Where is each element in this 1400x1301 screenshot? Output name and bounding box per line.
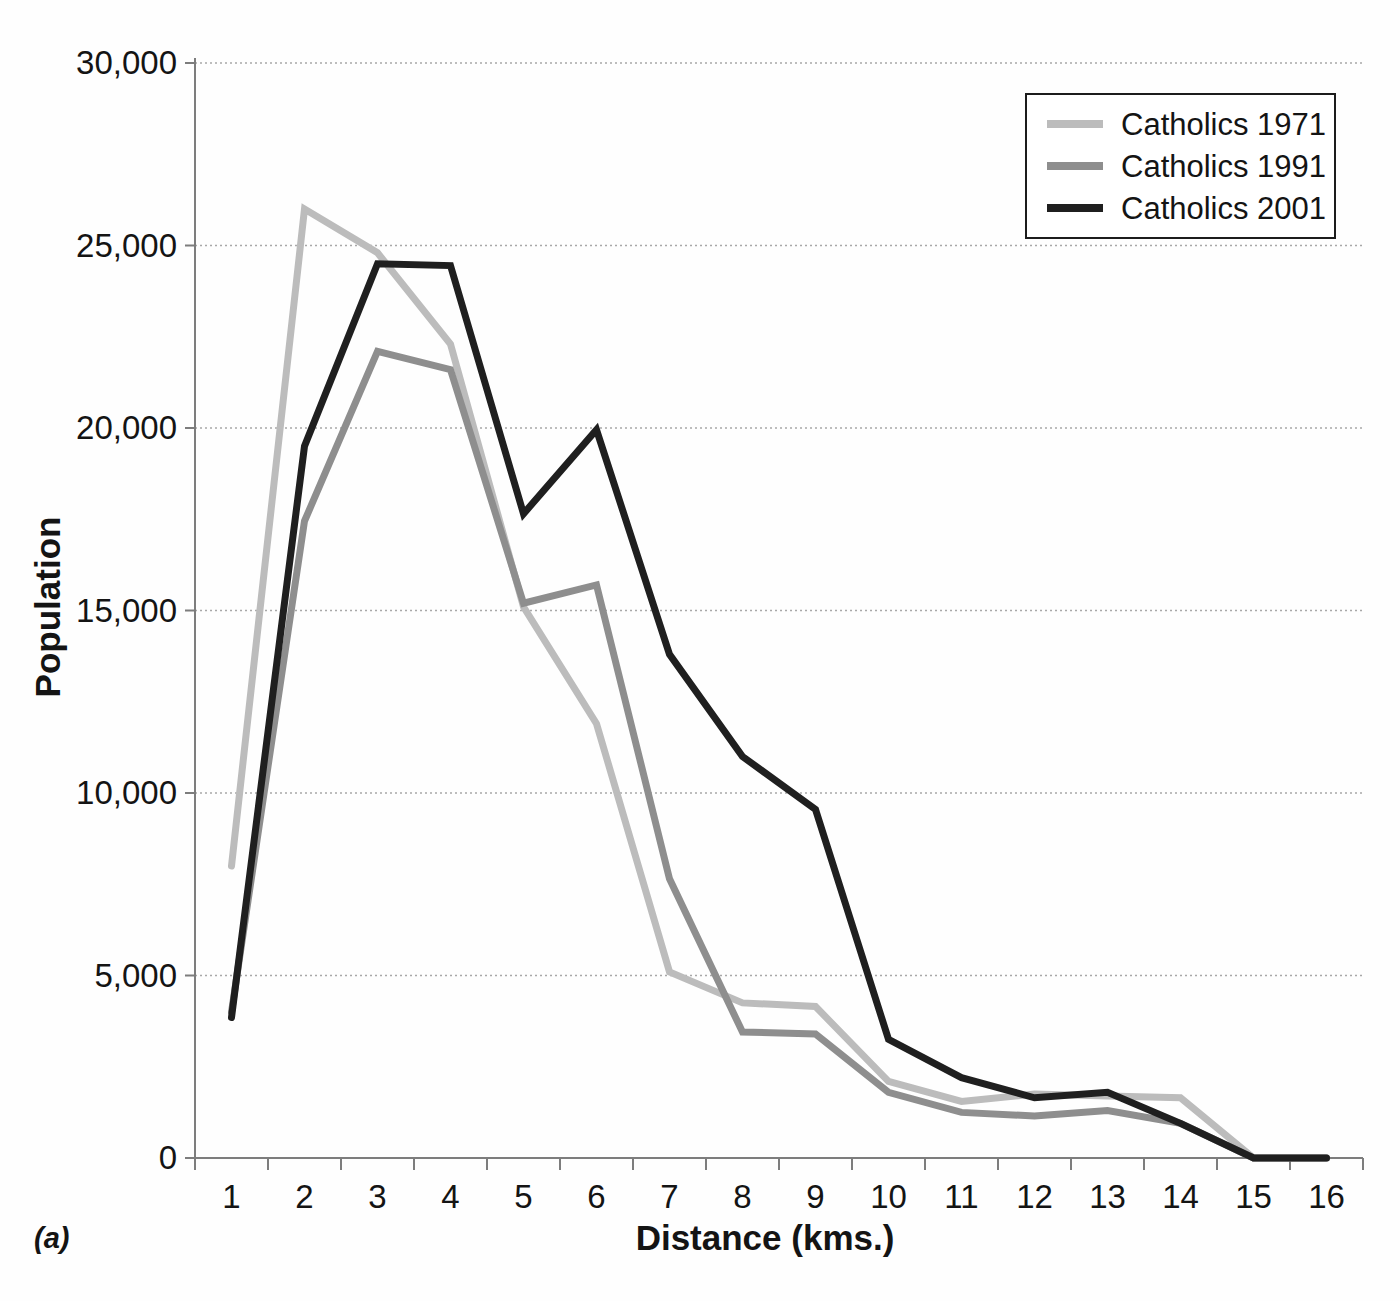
x-tick-label: 8 [733, 1178, 751, 1215]
series-lines [232, 209, 1327, 1158]
x-tick-label: 7 [660, 1178, 678, 1215]
x-tick-label: 16 [1308, 1178, 1345, 1215]
x-tick-label: 12 [1016, 1178, 1053, 1215]
legend-swatch-catholics-2001 [1047, 204, 1103, 212]
x-tick-label: 4 [441, 1178, 459, 1215]
x-tick-label: 5 [514, 1178, 532, 1215]
x-tick-label: 15 [1235, 1178, 1272, 1215]
x-tick-label: 2 [295, 1178, 313, 1215]
panel-label: (a) [34, 1222, 69, 1255]
x-tick-label: 13 [1089, 1178, 1126, 1215]
legend-item-catholics-1971: Catholics 1971 [1047, 109, 1334, 140]
y-tick-label: 25,000 [76, 227, 177, 264]
x-tick-label: 6 [587, 1178, 605, 1215]
legend-swatch-catholics-1971 [1047, 120, 1103, 128]
y-tick-label: 15,000 [76, 592, 177, 629]
figure: 05,00010,00015,00020,00025,00030,0001234… [0, 0, 1400, 1301]
legend-swatch-catholics-1991 [1047, 162, 1103, 170]
x-tick-label: 3 [368, 1178, 386, 1215]
x-tick-label: 11 [944, 1178, 978, 1215]
series-line-catholics-1971 [232, 209, 1327, 1158]
x-tick-label: 9 [806, 1178, 824, 1215]
x-tick-label: 14 [1162, 1178, 1199, 1215]
legend-item-catholics-1991: Catholics 1991 [1047, 151, 1334, 182]
legend-item-catholics-2001: Catholics 2001 [1047, 193, 1334, 224]
legend-label: Catholics 1971 [1121, 109, 1326, 140]
x-tick-label: 10 [870, 1178, 907, 1215]
y-tick-label: 10,000 [76, 774, 177, 811]
x-tick-label: 1 [222, 1178, 240, 1215]
x-axis-title: Distance (kms.) [636, 1218, 895, 1258]
legend-label: Catholics 2001 [1121, 193, 1326, 224]
y-tick-label: 5,000 [94, 957, 177, 994]
y-axis-title: Population [28, 517, 68, 698]
series-line-catholics-1991 [232, 351, 1327, 1158]
series-line-catholics-2001 [232, 264, 1327, 1158]
legend-label: Catholics 1991 [1121, 151, 1326, 182]
y-tick-label: 30,000 [76, 44, 177, 81]
y-tick-label: 20,000 [76, 409, 177, 446]
legend: Catholics 1971 Catholics 1991 Catholics … [1025, 93, 1336, 239]
y-tick-label: 0 [159, 1139, 177, 1176]
